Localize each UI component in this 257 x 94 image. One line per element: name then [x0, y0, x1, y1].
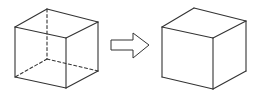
- cube-edge: [194, 8, 246, 21]
- cube-edge: [213, 21, 246, 38]
- cube-edge: [162, 77, 213, 89]
- cube-edge: [213, 71, 246, 89]
- cube-edge: [162, 8, 194, 27]
- cube-edge: [66, 71, 98, 88]
- cube-edge: [162, 27, 213, 38]
- cube-edge: [66, 22, 98, 38]
- cube-edge: [15, 27, 66, 38]
- cube-transformation-diagram: [0, 0, 257, 94]
- left-cube-wireframe: [15, 9, 98, 88]
- cube-edge: [15, 77, 66, 88]
- right-cube-solid: [162, 8, 246, 89]
- hidden-cube-edge: [47, 59, 98, 71]
- hidden-cube-edge: [15, 59, 47, 77]
- cube-edge: [47, 9, 98, 22]
- right-arrow-icon: [111, 33, 149, 58]
- cube-edge: [15, 9, 47, 27]
